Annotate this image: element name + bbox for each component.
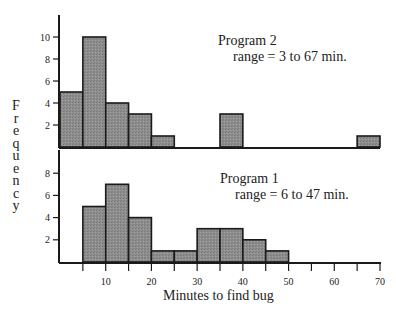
axis-labels: 10203040506070 (101, 276, 385, 287)
histogram-bar (129, 218, 152, 262)
svg-text:10: 10 (40, 32, 50, 43)
histogram-bar (243, 240, 266, 262)
svg-text:2: 2 (45, 234, 50, 245)
svg-text:8: 8 (45, 168, 50, 179)
histogram-bar (220, 229, 243, 262)
histogram-bar (266, 251, 289, 262)
svg-text:30: 30 (192, 276, 202, 287)
program-2-label: Program 2 range = 3 to 67 min. (218, 33, 347, 65)
program-2-range: range = 3 to 67 min. (218, 49, 347, 65)
histogram-bar (83, 207, 106, 263)
histogram-bar (151, 136, 174, 147)
y-axis-label: Frequency (10, 100, 22, 213)
svg-text:6: 6 (45, 190, 50, 201)
histogram-bar (197, 229, 220, 262)
histogram-bar (220, 114, 243, 147)
svg-text:60: 60 (329, 276, 339, 287)
program-1-histogram: 2468 (45, 150, 381, 271)
x-axis-label: Minutes to find bug (163, 288, 274, 304)
svg-text:4: 4 (45, 98, 50, 109)
histogram-bar (151, 251, 174, 262)
svg-text:40: 40 (238, 276, 248, 287)
svg-text:50: 50 (284, 276, 294, 287)
histogram-bar (83, 37, 106, 147)
svg-text:8: 8 (45, 54, 50, 65)
program-2-title: Program 2 (218, 33, 347, 49)
svg-text:4: 4 (45, 212, 50, 223)
svg-text:70: 70 (375, 276, 385, 287)
histogram-bar (106, 184, 129, 262)
program-1-label: Program 1 range = 6 to 47 min. (220, 171, 349, 203)
histogram-bar (60, 92, 83, 147)
svg-text:2: 2 (45, 120, 50, 131)
svg-text:20: 20 (146, 276, 156, 287)
svg-text:6: 6 (45, 76, 50, 87)
histogram-bar (129, 114, 152, 147)
histogram-bar (106, 103, 129, 147)
histogram-bar (357, 136, 380, 147)
program-1-title: Program 1 (220, 171, 349, 187)
program-1-range: range = 6 to 47 min. (220, 187, 349, 203)
svg-text:10: 10 (101, 276, 111, 287)
histogram-bar (174, 251, 197, 262)
y-axis-label-char: y (10, 200, 22, 213)
